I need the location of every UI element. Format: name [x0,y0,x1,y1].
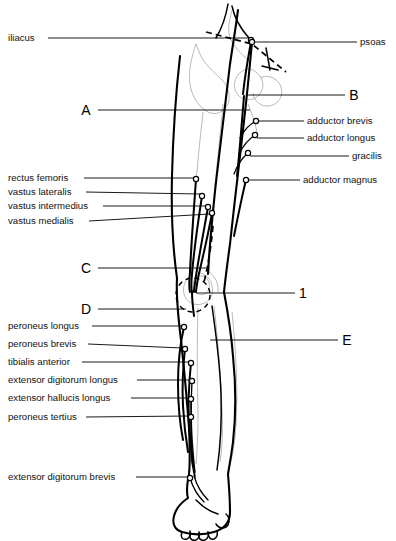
attachment-marker-extensor-digitorum-brevis [187,475,192,480]
label-adductor-brevis: adductor brevis [307,115,373,126]
attachment-marker-psoas [249,39,254,44]
label-peroneus-tertius: peroneus tertius [8,411,77,422]
attachment-marker-extensor-hallucis-longus [188,396,193,401]
label-gracilis: gracilis [352,150,382,161]
marker-b: B [349,87,358,103]
attachment-marker-vastus-lateralis [199,193,204,198]
label-vastus-intermedius: vastus intermedius [8,200,88,211]
label-psoas: psoas [360,36,386,47]
marker-e: E [342,332,351,348]
left-label-group: iliacusrectus femorisvastus lateralisvas… [8,32,254,482]
label-peroneus-longus: peroneus longus [8,320,79,331]
limb-outline [172,4,286,540]
anatomical-diagram: iliacusrectus femorisvastus lateralisvas… [0,0,396,541]
label-peroneus-brevis: peroneus brevis [8,338,76,349]
attachment-marker-peroneus-longus [181,324,186,329]
marker-a: A [81,102,91,118]
attachment-marker-adductor-brevis [253,118,258,123]
attachment-marker-peroneus-tertius [188,414,193,419]
leader-line-vastus-lateralis [86,192,200,194]
leader-line-vastus-medialis [89,214,210,221]
label-rectus-femoris: rectus femoris [8,172,68,183]
label-extensor-hallucis-longus: extensor hallucis longus [8,392,111,403]
attachment-marker-adductor-longus [252,132,257,137]
attachment-marker-gracilis [245,150,250,155]
label-extensor-digitorum-brevis: extensor digitorum brevis [8,471,115,482]
label-extensor-digitorum-longus: extensor digitorum longus [8,374,118,385]
marker-c: C [81,260,91,276]
attachment-marker-adductor-magnus [243,177,248,182]
attachment-marker-extensor-digitorum-longus [189,378,194,383]
label-vastus-medialis: vastus medialis [8,215,74,226]
bone-outlines [183,10,281,468]
label-iliacus: iliacus [8,32,35,43]
attachment-marker-vastus-intermedius [205,204,210,209]
attachment-marker-peroneus-brevis [182,346,187,351]
attachment-marker-tibialis-anterior [188,360,193,365]
leader-line-peroneus-brevis [88,344,183,348]
label-adductor-longus: adductor longus [307,132,375,143]
label-vastus-lateralis: vastus lateralis [8,186,72,197]
right-label-group: psoasadductor brevisadductor longusgraci… [243,36,385,185]
attachment-marker-rectus-femoris [193,176,198,181]
attachment-marker-vastus-medialis [209,210,214,215]
marker-d: D [81,301,91,317]
leader-line-peroneus-tertius [86,416,189,417]
marker-label-group: ABCD1E [81,87,359,348]
label-tibialis-anterior: tibialis anterior [8,356,71,367]
marker-1: 1 [299,285,307,301]
label-adductor-magnus: adductor magnus [303,174,377,185]
